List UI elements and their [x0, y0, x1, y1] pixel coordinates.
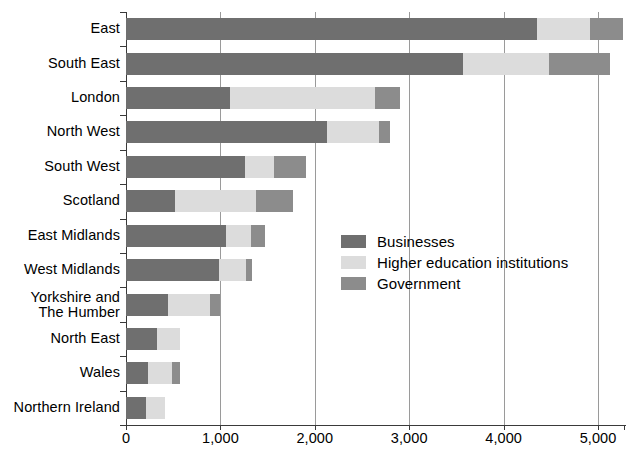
y-axis-tick-label: South West — [0, 159, 120, 175]
y-axis-category-label: Scotland — [0, 194, 120, 210]
legend-item[interactable]: Government — [341, 273, 568, 294]
bar-segment[interactable] — [126, 225, 226, 247]
bar-segment[interactable] — [168, 294, 210, 316]
bar-segment[interactable] — [226, 225, 251, 247]
bar-segment[interactable] — [126, 18, 537, 40]
bar-segment[interactable] — [126, 294, 168, 316]
bar-row[interactable] — [126, 328, 624, 350]
y-axis-tick-label: North East — [0, 331, 120, 347]
bar-segment[interactable] — [375, 87, 400, 109]
x-axis-line — [126, 425, 626, 426]
y-axis-category-label: Wales — [0, 366, 120, 382]
bar-row[interactable] — [126, 156, 624, 178]
y-axis-category-label: West Midlands — [0, 262, 120, 278]
legend: BusinessesHigher education institutionsG… — [341, 231, 568, 294]
y-axis-tick-label: Wales — [0, 366, 120, 382]
bar-segment[interactable] — [126, 397, 146, 419]
y-axis-tick-label: South East — [0, 56, 120, 72]
legend-label: Higher education institutions — [377, 254, 568, 271]
bar-segment[interactable] — [148, 362, 173, 384]
y-axis-tick-label: West Midlands — [0, 262, 120, 278]
bar-row[interactable] — [126, 53, 624, 75]
y-axis-category-label: Northern Ireland — [0, 400, 120, 416]
bar-segment[interactable] — [590, 18, 623, 40]
bar-segment[interactable] — [246, 259, 253, 281]
y-axis-category-label: Yorkshire andThe Humber — [0, 289, 120, 320]
y-axis-tick-label: The Humber — [0, 305, 120, 321]
bar-segment[interactable] — [463, 53, 549, 75]
bar-segment[interactable] — [126, 53, 463, 75]
bar-segment[interactable] — [126, 259, 219, 281]
y-axis-tick-label: Yorkshire and — [0, 289, 120, 305]
x-axis-tick-label: 2,000 — [296, 430, 333, 446]
legend-item[interactable]: Businesses — [341, 231, 568, 252]
y-axis-category-label: South East — [0, 56, 120, 72]
bar-segment[interactable] — [245, 156, 274, 178]
y-axis-category-label: South West — [0, 159, 120, 175]
bar-segment[interactable] — [219, 259, 246, 281]
legend-swatch — [341, 277, 366, 290]
plot-area — [126, 12, 624, 425]
legend-label: Businesses — [377, 233, 455, 250]
bar-segment[interactable] — [126, 362, 148, 384]
bar-row[interactable] — [126, 18, 624, 40]
bar-segment[interactable] — [126, 121, 327, 143]
bar-row[interactable] — [126, 121, 624, 143]
bar-segment[interactable] — [126, 156, 245, 178]
bar-segment[interactable] — [126, 190, 175, 212]
bar-row[interactable] — [126, 190, 624, 212]
bar-segment[interactable] — [379, 121, 390, 143]
bar-row[interactable] — [126, 362, 624, 384]
y-axis-tick-label: London — [0, 90, 120, 106]
bar-segment[interactable] — [256, 190, 293, 212]
legend-swatch — [341, 235, 366, 248]
bar-segment[interactable] — [157, 328, 180, 350]
y-axis-tick-label: East — [0, 21, 120, 37]
bar-segment[interactable] — [126, 87, 230, 109]
bar-segment[interactable] — [126, 328, 157, 350]
x-axis-tick-label: 1,000 — [202, 430, 239, 446]
y-axis-category-label: East Midlands — [0, 228, 120, 244]
x-axis-tick-label: 0 — [122, 430, 130, 446]
y-axis-category-label: London — [0, 90, 120, 106]
bar-segment[interactable] — [549, 53, 610, 75]
x-axis-tick — [624, 425, 625, 430]
bar-row[interactable] — [126, 87, 624, 109]
legend-item[interactable]: Higher education institutions — [341, 252, 568, 273]
y-axis-tick-label: East Midlands — [0, 228, 120, 244]
x-axis-tick-label: 3,000 — [391, 430, 428, 446]
bar-row[interactable] — [126, 294, 624, 316]
y-axis-category-label: East — [0, 21, 120, 37]
y-axis-tick-label: Northern Ireland — [0, 400, 120, 416]
bar-segment[interactable] — [210, 294, 220, 316]
y-axis-category-label: North East — [0, 331, 120, 347]
bar-segment[interactable] — [146, 397, 165, 419]
x-axis-tick-label: 5,000 — [580, 430, 617, 446]
y-axis-tick-label: North West — [0, 125, 120, 141]
bar-row[interactable] — [126, 397, 624, 419]
bar-segment[interactable] — [537, 18, 590, 40]
y-axis-tick-label: Scotland — [0, 194, 120, 210]
legend-label: Government — [377, 275, 461, 292]
bar-segment[interactable] — [230, 87, 375, 109]
bar-segment[interactable] — [175, 190, 256, 212]
bar-segment[interactable] — [327, 121, 379, 143]
bar-chart: EastSouth EastLondonNorth WestSouth West… — [0, 0, 636, 456]
bar-segment[interactable] — [274, 156, 306, 178]
legend-swatch — [341, 256, 366, 269]
x-axis-tick-label: 4,000 — [485, 430, 522, 446]
y-axis-category-label: North West — [0, 125, 120, 141]
bar-segment[interactable] — [251, 225, 265, 247]
bar-segment[interactable] — [172, 362, 180, 384]
